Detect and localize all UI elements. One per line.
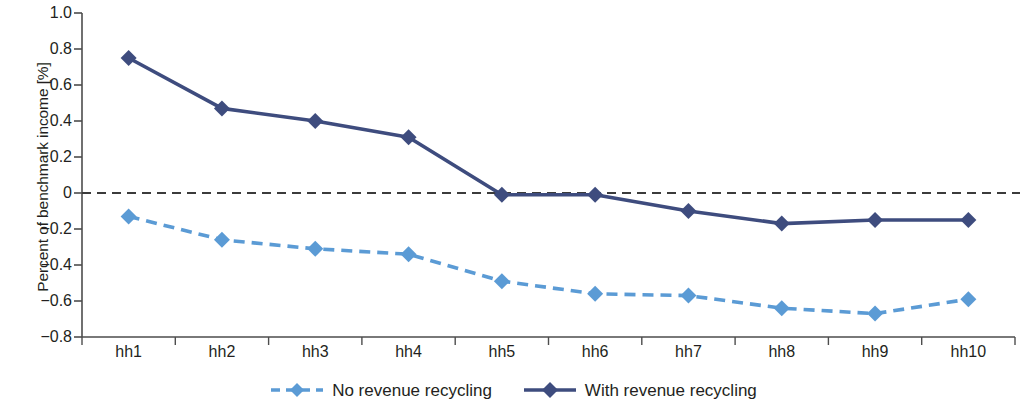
legend-label-with-revenue-recycling: With revenue recycling <box>585 382 757 399</box>
legend-swatch-solid-diamond-icon <box>522 381 578 399</box>
chart-legend: No revenue recycling With revenue recycl… <box>0 381 1026 399</box>
x-axis-tick-labels: hh1hh2hh3hh4hh5hh6hh7hh8hh9hh10 <box>0 0 1026 413</box>
x-axis-tick-label: hh1 <box>79 344 179 360</box>
x-axis-tick-label: hh8 <box>732 344 832 360</box>
legend-entry-no-revenue-recycling[interactable]: No revenue recycling <box>269 381 492 399</box>
x-axis-tick-label: hh3 <box>265 344 365 360</box>
x-axis-tick-label: hh9 <box>825 344 925 360</box>
legend-label-no-revenue-recycling: No revenue recycling <box>332 382 492 399</box>
x-axis-tick-label: hh7 <box>638 344 738 360</box>
x-axis-tick-label: hh2 <box>172 344 272 360</box>
legend-entry-with-revenue-recycling[interactable]: With revenue recycling <box>522 381 757 399</box>
x-axis-tick-label: hh10 <box>918 344 1018 360</box>
legend-swatch-dashed-diamond-icon <box>269 381 325 399</box>
x-axis-tick-label: hh6 <box>545 344 645 360</box>
x-axis-tick-label: hh4 <box>359 344 459 360</box>
chart-figure: Percent of benchmark income [%] 1.00.80.… <box>0 0 1026 413</box>
x-axis-tick-label: hh5 <box>452 344 552 360</box>
